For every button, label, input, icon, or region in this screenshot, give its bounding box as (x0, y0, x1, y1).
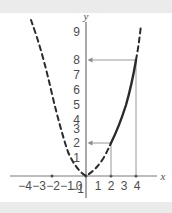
y-tick-label-8: 8 (73, 53, 80, 67)
arrowhead-y2 (88, 141, 93, 146)
x-tick-label-neg3: −3 (32, 179, 46, 193)
graph-figure: 9 8 7 6 5 4 3 2 1 −1 −4 −3 −2 −1 0 1 2 3… (0, 0, 172, 213)
solid-parabola-segment (111, 60, 136, 143)
dashed-parabola-branch (31, 20, 111, 176)
x-tick-label-neg4: −4 (18, 179, 32, 193)
x-tick-label-1: 1 (95, 179, 102, 193)
y-tick-label-9: 9 (73, 25, 80, 39)
x-tick-label-0: 0 (76, 179, 83, 193)
y-tick-label-6: 6 (73, 83, 80, 97)
x-tick-label-3: 3 (121, 179, 128, 193)
x-axis-label: x (160, 170, 166, 182)
arrowhead-y8 (88, 58, 93, 63)
y-axis-label: y (83, 10, 89, 22)
x-tick-mark-neg2 (51, 175, 54, 178)
dashed-parabola-upper (136, 25, 141, 60)
coordinate-plane: 9 8 7 6 5 4 3 2 1 −1 −4 −3 −2 −1 0 1 2 3… (0, 0, 172, 213)
y-tick-label-2: 2 (73, 136, 80, 150)
y-tick-label-7: 7 (73, 68, 80, 82)
x-tick-label-4: 4 (134, 179, 141, 193)
x-tick-label-neg1: −1 (60, 179, 74, 193)
x-tick-label-neg2: −2 (46, 179, 60, 193)
x-tick-label-2: 2 (108, 179, 115, 193)
y-tick-label-1: 1 (73, 151, 80, 165)
y-tick-label-3: 3 (73, 122, 80, 136)
y-tick-label-5: 5 (73, 98, 80, 112)
